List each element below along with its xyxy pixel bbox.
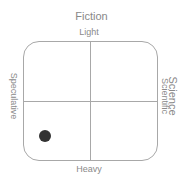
quadrant-box bbox=[23, 41, 158, 161]
top-axis-label: Light bbox=[0, 27, 178, 37]
horizontal-divider bbox=[24, 101, 157, 102]
left-axis-label: Speculative bbox=[9, 72, 19, 120]
horizontal-axis-title: Science bbox=[167, 71, 179, 121]
vertical-axis-title: Fiction bbox=[0, 10, 183, 22]
data-point-marker bbox=[39, 130, 51, 142]
bottom-axis-label: Heavy bbox=[0, 164, 178, 174]
